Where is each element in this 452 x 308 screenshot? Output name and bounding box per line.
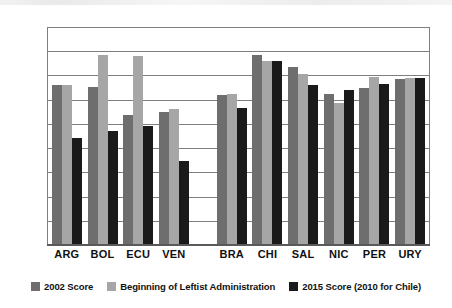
- bar-group-ecu: [120, 27, 156, 245]
- bar-nic-series-0: [324, 94, 334, 245]
- x-label-per: PER: [357, 248, 393, 264]
- x-label-arg: ARG: [49, 248, 85, 264]
- bar-sal-series-1: [298, 74, 308, 245]
- bar-arg-series-2: [72, 138, 82, 245]
- bar-ecu-series-1: [133, 56, 143, 245]
- bar-arg-series-0: [52, 85, 62, 245]
- bar-ven-series-1: [169, 109, 179, 245]
- x-label-spacer: [192, 248, 214, 264]
- bar-chart-figure: 0.010.020.030.040.050.060.070.080.090.0 …: [0, 0, 452, 308]
- legend-item-0[interactable]: 2002 Score: [31, 281, 93, 292]
- bar-sal-series-0: [288, 67, 298, 245]
- bar-arg-series-1: [62, 85, 72, 245]
- bar-nic-series-1: [334, 103, 344, 245]
- x-label-bra: BRA: [214, 248, 250, 264]
- x-label-ven: VEN: [156, 248, 192, 264]
- x-label-nic: NIC: [321, 248, 357, 264]
- bar-sal-series-2: [308, 85, 318, 245]
- x-label-ury: URY: [392, 248, 428, 264]
- bar-ury-series-2: [415, 78, 425, 245]
- bar-ury-series-0: [395, 79, 405, 245]
- bar-group-bol: [85, 27, 121, 245]
- bar-group-chi: [250, 27, 286, 245]
- bar-bra-series-1: [227, 94, 237, 245]
- bar-bra-series-2: [237, 108, 247, 245]
- bar-ven-series-0: [159, 112, 169, 245]
- bar-bol-series-2: [108, 131, 118, 245]
- bar-group-spacer: [192, 27, 214, 245]
- bar-nic-series-2: [344, 90, 354, 245]
- bar-per-series-0: [359, 88, 369, 245]
- legend-swatch-icon-0: [31, 282, 40, 291]
- bar-group-per: [357, 27, 393, 245]
- legend-swatch-icon-1: [107, 282, 116, 291]
- x-label-chi: CHI: [250, 248, 286, 264]
- bar-ury-series-1: [405, 78, 415, 245]
- legend-label-1: Beginning of Leftist Administration: [120, 281, 275, 292]
- bar-per-series-1: [369, 77, 379, 245]
- bar-chi-series-2: [272, 61, 282, 245]
- bar-group-ury: [392, 27, 428, 245]
- legend-item-2[interactable]: 2015 Score (2010 for Chile): [289, 281, 421, 292]
- plot-area: 0.010.020.030.040.050.060.070.080.090.0: [47, 27, 430, 245]
- legend-item-1[interactable]: Beginning of Leftist Administration: [107, 281, 275, 292]
- legend-label-2: 2015 Score (2010 for Chile): [302, 281, 421, 292]
- bar-group-sal: [285, 27, 321, 245]
- bar-bol-series-0: [88, 87, 98, 245]
- legend-swatch-icon-2: [289, 282, 298, 291]
- bar-ecu-series-0: [123, 115, 133, 245]
- bar-group-nic: [321, 27, 357, 245]
- legend-label-0: 2002 Score: [44, 281, 93, 292]
- bar-group-ven: [156, 27, 192, 245]
- bar-ven-series-2: [179, 161, 189, 245]
- bar-bra-series-0: [217, 95, 227, 245]
- bar-group-bra: [214, 27, 250, 245]
- bar-chi-series-1: [262, 61, 272, 245]
- x-axis-category-labels: ARGBOLECUVENBRACHISALNICPERURY: [47, 248, 430, 264]
- bar-bol-series-1: [98, 55, 108, 245]
- bar-ecu-series-2: [143, 126, 153, 245]
- chart-legend: 2002 ScoreBeginning of Leftist Administr…: [0, 281, 452, 292]
- bar-per-series-2: [379, 84, 389, 245]
- x-label-bol: BOL: [85, 248, 121, 264]
- bar-series-container: [47, 27, 430, 245]
- x-label-ecu: ECU: [120, 248, 156, 264]
- x-label-sal: SAL: [285, 248, 321, 264]
- bar-group-arg: [49, 27, 85, 245]
- bar-chi-series-0: [252, 55, 262, 245]
- x-axis-line: [47, 244, 430, 246]
